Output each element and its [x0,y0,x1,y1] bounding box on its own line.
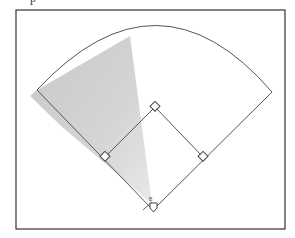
right-foul-line [153,92,272,210]
second-base-icon [150,101,160,111]
second-to-first-line [155,107,203,157]
baseball-field-diagram: p B [0,0,295,238]
shaded-spray-zone [30,36,152,204]
cut-off-caption: p [30,0,36,6]
home-plate-icon [150,203,157,212]
batter-label: B [149,196,153,202]
